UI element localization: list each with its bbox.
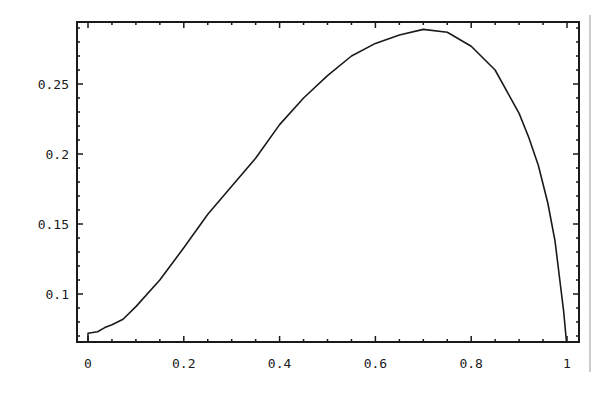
y-tick-label: 0.2: [46, 147, 69, 162]
x-tick-label: 0.4: [268, 356, 292, 371]
x-tick-label: 0.2: [172, 356, 195, 371]
y-tick-label: 0.15: [38, 217, 69, 232]
x-tick-label: 0: [84, 356, 92, 371]
x-tick-label: 0.8: [459, 356, 482, 371]
line-chart: 0.10.150.20.25 00.20.40.60.81: [0, 0, 605, 396]
y-tick-label: 0.25: [38, 77, 69, 92]
x-tick-label: 1: [563, 356, 571, 371]
chart-background: [0, 0, 605, 396]
y-tick-label: 0.1: [46, 287, 69, 302]
x-tick-label: 0.6: [364, 356, 387, 371]
